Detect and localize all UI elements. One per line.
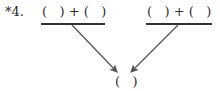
right-arrow-icon [131,25,178,72]
result-blank: ( ) [115,75,138,89]
converging-arrows [0,0,220,91]
left-arrow-icon [72,25,117,72]
